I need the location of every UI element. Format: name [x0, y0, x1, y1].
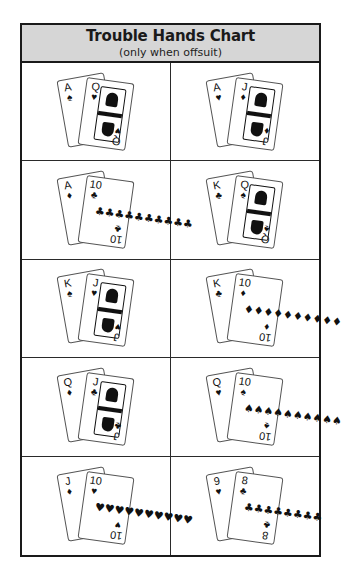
- hand-queen-ten: Q♥ 10♠ ♠♠♠♠♠♠♠♠♠♠ 10♠: [205, 367, 285, 447]
- front-card: J♣ J♣: [77, 372, 134, 446]
- front-card: 10♦ ♦♦♦♦♦♦♦♦♦♦ 10♦: [226, 273, 283, 347]
- card-rank: 10: [109, 233, 123, 247]
- card-suit-icon: ♦: [260, 125, 273, 137]
- card-suit-icon: ♣: [111, 223, 124, 235]
- card-suit-icon: ♣: [111, 420, 124, 432]
- hand-cell-king-ten: K♣ 10♦ ♦♦♦♦♦♦♦♦♦♦ 10♦: [171, 260, 320, 358]
- card-suit-icon: ♥: [111, 322, 124, 334]
- hand-king-jack: K♠ J♥ J♥: [56, 268, 136, 348]
- card-suit-icon: ♣: [212, 190, 226, 202]
- card-suit-icon: ♣: [260, 519, 273, 531]
- front-card: 10♥ ♥♥♥♥♥♥♥♥♥♥ 10♥: [77, 471, 134, 545]
- hand-cell-jack-ten: J♦ 10♥ ♥♥♥♥♥♥♥♥♥♥ 10♥: [22, 457, 171, 555]
- card-rank: J: [112, 332, 119, 345]
- card-rank: J: [112, 430, 119, 443]
- hand-cell-nine-eight: 9♥ 8♣ ♣♣♣♣♣♣♣♣ 8♣: [171, 457, 320, 555]
- hand-nine-eight: 9♥ 8♣ ♣♣♣♣♣♣♣♣ 8♣: [205, 466, 285, 546]
- card-suit-icon: ♦: [63, 190, 77, 202]
- hand-cell-king-jack: K♠ J♥ J♥: [22, 260, 171, 358]
- hand-cell-ace-jack: A♥ J♦ J♦: [171, 63, 320, 161]
- chart-title: Trouble Hands Chart: [22, 25, 319, 46]
- hands-grid: A♠ Q♥ Q♥ A♥ J♦ J♦: [22, 63, 319, 555]
- hand-cell-queen-ten: Q♥ 10♠ ♠♠♠♠♠♠♠♠♠♠ 10♠: [171, 358, 320, 456]
- card-suit-icon: ♣: [212, 288, 226, 300]
- hand-king-ten: K♣ 10♦ ♦♦♦♦♦♦♦♦♦♦ 10♦: [205, 268, 285, 348]
- front-card: 10♠ ♠♠♠♠♠♠♠♠♠♠ 10♠: [226, 372, 283, 446]
- card-suit-icon: ♦: [63, 485, 77, 497]
- card-suit-icon: ♠: [63, 288, 77, 300]
- hand-jack-ten: J♦ 10♥ ♥♥♥♥♥♥♥♥♥♥ 10♥: [56, 466, 136, 546]
- card-rank: 10: [258, 331, 272, 345]
- hand-queen-jack: Q♦ J♣ J♣: [56, 367, 136, 447]
- front-card: Q♥ Q♥: [77, 77, 134, 151]
- hand-cell-queen-jack: Q♦ J♣ J♣: [22, 358, 171, 456]
- chart-subtitle: (only when offsuit): [22, 46, 319, 59]
- hand-king-queen: K♣ Q♠ Q♠: [205, 170, 285, 250]
- front-card: Q♠ Q♠: [226, 175, 283, 249]
- chart-header: Trouble Hands Chart (only when offsuit): [22, 25, 319, 63]
- front-card: J♥ J♥: [77, 273, 134, 347]
- hand-ace-ten: A♦ 10♣ ♣♣♣♣♣♣♣♣♣♣ 10♣: [56, 170, 136, 250]
- hand-ace-jack: A♥ J♦ J♦: [205, 72, 285, 152]
- card-rank: 10: [258, 430, 272, 444]
- hand-cell-ace-queen: A♠ Q♥ Q♥: [22, 63, 171, 161]
- trouble-hands-chart: Trouble Hands Chart (only when offsuit) …: [20, 23, 321, 557]
- front-card: 10♣ ♣♣♣♣♣♣♣♣♣♣ 10♣: [77, 175, 134, 249]
- hand-cell-ace-ten: A♦ 10♣ ♣♣♣♣♣♣♣♣♣♣ 10♣: [22, 161, 171, 259]
- hand-cell-king-queen: K♣ Q♠ Q♠: [171, 161, 320, 259]
- card-suit-icon: ♥: [212, 485, 226, 497]
- front-card: J♦ J♦: [226, 77, 283, 151]
- hand-ace-queen: A♠ Q♥ Q♥: [56, 72, 136, 152]
- front-card: 8♣ ♣♣♣♣♣♣♣♣ 8♣: [226, 471, 283, 545]
